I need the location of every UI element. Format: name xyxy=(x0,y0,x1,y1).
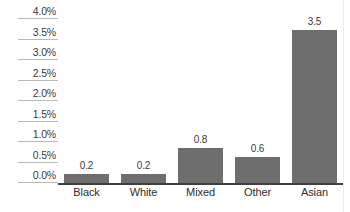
y-axis-tick-label: 0.5% xyxy=(33,149,56,161)
bar-value-label: 0.2 xyxy=(80,161,94,171)
bar-chart: 4.0% 3.5% 3.0% 2.5% 2.0% 1.5% 1.0% 0.5% xyxy=(0,0,350,212)
y-axis-tick-rule xyxy=(18,100,58,101)
x-axis-category-label: Black xyxy=(64,186,109,198)
y-axis-tick-rule xyxy=(18,18,58,19)
bar[interactable] xyxy=(64,174,109,183)
x-axis: Black White Mixed Other Asian xyxy=(58,186,343,208)
bar-value-label: 0.6 xyxy=(251,144,265,154)
bar-value-label: 0.2 xyxy=(137,161,151,171)
bar-group: 0.2 xyxy=(121,8,166,183)
y-axis-tick-rule xyxy=(18,121,58,122)
bar-group: 3.5 xyxy=(292,8,337,183)
y-axis-tick-label: 0.0% xyxy=(33,169,56,181)
x-axis-line xyxy=(58,183,343,185)
y-axis-tick-rule xyxy=(18,162,58,163)
bar-series: 0.2 0.2 0.8 0.6 3.5 xyxy=(58,8,343,183)
x-axis-category-label: White xyxy=(121,186,166,198)
y-axis-tick-rule xyxy=(18,39,58,40)
y-axis-tick-rule xyxy=(18,59,58,60)
bar[interactable] xyxy=(235,157,280,183)
x-axis-category-label: Other xyxy=(235,186,280,198)
y-axis-tick-label: 2.0% xyxy=(33,87,56,99)
y-axis-tick-rule xyxy=(18,80,58,81)
x-axis-category-label: Asian xyxy=(292,186,337,198)
bar-group: 0.6 xyxy=(235,8,280,183)
y-axis: 4.0% 3.5% 3.0% 2.5% 2.0% 1.5% 1.0% 0.5% xyxy=(0,0,60,212)
bar-value-label: 3.5 xyxy=(308,17,322,27)
bar[interactable] xyxy=(121,174,166,183)
y-axis-tick-rule xyxy=(18,182,58,183)
bar[interactable] xyxy=(292,30,337,183)
page-edge-artifact xyxy=(343,0,344,212)
x-axis-category-label: Mixed xyxy=(178,186,223,198)
y-axis-tick-label: 1.0% xyxy=(33,128,56,140)
y-axis-tick-rule xyxy=(18,141,58,142)
bar-group: 0.8 xyxy=(178,8,223,183)
bar-value-label: 0.8 xyxy=(194,135,208,145)
y-axis-tick-label: 4.0% xyxy=(33,5,56,17)
bar-group: 0.2 xyxy=(64,8,109,183)
y-axis-tick-label: 2.5% xyxy=(33,67,56,79)
y-axis-tick-label: 1.5% xyxy=(33,108,56,120)
bar[interactable] xyxy=(178,148,223,183)
y-axis-tick-label: 3.5% xyxy=(33,26,56,38)
plot-area: 0.2 0.2 0.8 0.6 3.5 xyxy=(58,8,343,183)
y-axis-tick-label: 3.0% xyxy=(33,46,56,58)
